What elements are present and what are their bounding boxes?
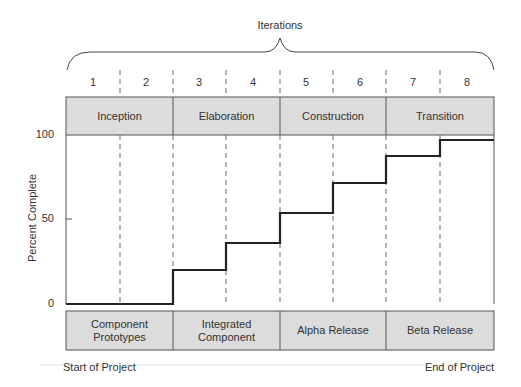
phase-elaboration: Elaboration (173, 97, 280, 135)
milestone-integrated-component: Integrated Component (173, 311, 280, 350)
iteration-7: 7 (403, 76, 423, 88)
milestone-alpha-release: Alpha Release (280, 311, 386, 350)
iteration-4: 4 (243, 76, 263, 88)
phase-transition: Transition (386, 97, 494, 135)
end-of-project-label: End of Project (425, 361, 494, 373)
phase-construction: Construction (280, 97, 386, 135)
start-of-project-label: Start of Project (63, 361, 136, 373)
iteration-6: 6 (350, 76, 370, 88)
phase-inception: Inception (66, 97, 173, 135)
y-axis-label: Percent Complete (26, 168, 38, 268)
y-tick-0: 0 (24, 297, 54, 309)
iteration-1: 1 (83, 76, 103, 88)
y-tick-100: 100 (24, 128, 54, 140)
milestone-beta-release: Beta Release (386, 311, 494, 350)
iteration-5: 5 (296, 76, 316, 88)
iteration-3: 3 (189, 76, 209, 88)
milestone-component-prototypes: Component Prototypes (66, 311, 173, 350)
iteration-2: 2 (136, 76, 156, 88)
iteration-8: 8 (457, 76, 477, 88)
iterations-brace (67, 38, 494, 70)
